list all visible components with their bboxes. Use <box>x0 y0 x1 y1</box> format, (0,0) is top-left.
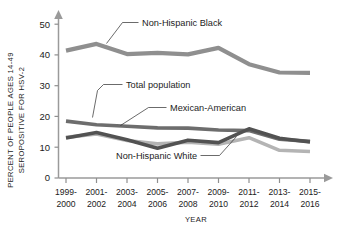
chart-canvas: 50 40 30 20 10 0 1999-20002001-20022003-… <box>0 0 341 230</box>
x-tick-label-2013-2014-line1: 2013- <box>269 187 291 197</box>
y-tick-labels: 50 40 30 20 10 0 <box>39 19 50 184</box>
annotation-non-hispanic-black: Non-Hispanic Black <box>142 18 223 28</box>
x-tick-label-2009-2010-line1: 2009- <box>208 187 230 197</box>
annotation-total-population: Total population <box>126 80 190 90</box>
series-line-total-population <box>66 121 310 141</box>
x-tick-labels: 1999-20002001-20022003-20042005-20062007… <box>55 187 321 209</box>
x-tick-label-2011-2012-line1: 2011- <box>238 187 259 197</box>
x-tick-label-2005-2006-line2: 2006 <box>148 199 167 209</box>
x-tick-label-2003-2004-line2: 2004 <box>117 199 136 209</box>
y-axis-title-line2: SEROPOSITIVE FOR HSV-2 <box>17 67 26 173</box>
x-tick-label-2007-2008-line2: 2008 <box>178 199 197 209</box>
series-lines <box>66 44 310 152</box>
y-axis-title-line1: PERCENT OF PEOPLE AGES 14-49 <box>6 52 15 187</box>
hsv2-seroprevalence-chart: 50 40 30 20 10 0 1999-20002001-20022003-… <box>0 0 341 230</box>
y-tick-label-30: 30 <box>39 80 50 91</box>
x-tick-label-2007-2008-line1: 2007- <box>177 187 199 197</box>
leader-total-population-tail <box>93 85 104 118</box>
leader-mexican-american-tail <box>121 108 149 126</box>
axis-titles: PERCENT OF PEOPLE AGES 14-49 SEROPOSITIV… <box>6 52 207 224</box>
y-tick-label-40: 40 <box>39 49 50 60</box>
y-tick-label-50: 50 <box>39 19 50 30</box>
x-tick-label-2005-2006-line1: 2005- <box>147 187 169 197</box>
annotation-mexican-american: Mexican-American <box>170 103 246 113</box>
y-tick-label-20: 20 <box>39 111 50 122</box>
x-tick-label-1999-2000-line2: 2000 <box>56 199 75 209</box>
x-tick-label-2001-2002-line2: 2002 <box>87 199 106 209</box>
y-tick-label-0: 0 <box>45 172 50 183</box>
x-tick-label-2015-2016-line2: 2016 <box>300 199 319 209</box>
x-axis-arrow-icon <box>324 174 333 183</box>
y-axis <box>54 10 63 178</box>
x-tick-label-2001-2002-line1: 2001- <box>86 187 108 197</box>
x-tick-label-2003-2004-line1: 2003- <box>116 187 138 197</box>
x-tick-label-1999-2000-line1: 1999- <box>55 187 77 197</box>
x-tick-label-2015-2016-line1: 2015- <box>299 187 321 197</box>
y-tick-label-10: 10 <box>39 142 50 153</box>
x-tick-label-2013-2014-line2: 2014 <box>270 199 289 209</box>
x-tick-label-2009-2010-line2: 2010 <box>209 199 228 209</box>
annotation-non-hispanic-white: Non-Hispanic White <box>116 151 197 161</box>
x-axis-title: YEAR <box>185 215 207 224</box>
y-axis-arrow-icon <box>54 10 63 19</box>
x-axis <box>59 174 334 183</box>
series-line-non-hispanic-black <box>66 44 310 73</box>
leader-nh-black-tail <box>107 23 123 44</box>
x-tick-label-2011-2012-line2: 2012 <box>239 199 258 209</box>
